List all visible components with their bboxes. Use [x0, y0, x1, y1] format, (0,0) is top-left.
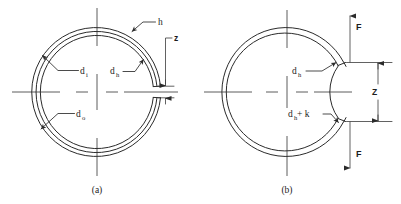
label-dh-base-b: d [292, 66, 297, 76]
label-di-group: d i [43, 56, 89, 78]
label-do-base: d [76, 109, 81, 119]
panel-b: d h d h + k Z [204, 10, 392, 196]
retaining-ring-diagram: h d i d h d o [0, 0, 401, 204]
label-z-gap: z [174, 33, 178, 43]
caption-panel-b: (b) [281, 185, 292, 196]
label-force-top: F [356, 22, 362, 32]
technical-figure: h d i d h d o [0, 0, 401, 204]
label-dhk-suffix: + k [297, 109, 310, 119]
caption-panel-a: (a) [92, 185, 103, 196]
leader-line-dh [123, 60, 144, 72]
label-di-subscript: i [86, 71, 88, 78]
label-do-subscript: o [82, 114, 86, 121]
leader-line-z [166, 38, 173, 84]
label-dhk-base: d [288, 109, 293, 119]
label-di-base: d [80, 66, 85, 76]
label-dh-subscript-b: h [298, 71, 302, 78]
leader-line-h [132, 22, 156, 32]
label-dh-subscript: h [116, 71, 120, 78]
panel-a-centerlines [12, 8, 178, 176]
label-dh-group-b: d h [292, 63, 336, 78]
gap-dimension-z-group: z [159, 33, 179, 104]
panel-a: h d i d h d o [12, 8, 178, 196]
label-h: h [158, 17, 163, 27]
label-dh-base: d [110, 66, 115, 76]
label-dh-group: d h [110, 60, 144, 78]
label-Z-dimension: Z [372, 87, 377, 97]
label-h-group: h [132, 17, 163, 32]
label-force-bottom: F [356, 149, 362, 159]
dimension-Z-group: Z [347, 63, 393, 122]
leader-line-dh-b [306, 63, 336, 72]
label-dh-plus-k-group: d h + k [288, 109, 339, 123]
